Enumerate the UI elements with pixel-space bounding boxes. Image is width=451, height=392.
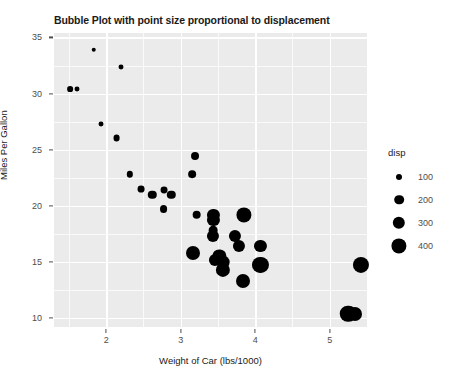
grid-line-vertical bbox=[255, 33, 256, 327]
data-point bbox=[233, 240, 245, 252]
data-point bbox=[217, 256, 230, 269]
data-point bbox=[119, 64, 124, 69]
data-point bbox=[254, 240, 266, 252]
data-point bbox=[137, 186, 144, 193]
legend-item: 400 bbox=[386, 234, 405, 257]
data-point bbox=[252, 257, 268, 273]
y-tick-mark bbox=[49, 317, 53, 318]
grid-line-vertical bbox=[330, 33, 331, 327]
legend-label: 300 bbox=[418, 218, 433, 228]
data-point bbox=[148, 190, 156, 198]
grid-line-horizontal bbox=[54, 150, 367, 151]
data-point bbox=[191, 152, 199, 160]
y-tick-label: 25 bbox=[12, 145, 42, 155]
y-tick-label: 15 bbox=[12, 257, 42, 267]
y-tick-mark bbox=[49, 149, 53, 150]
x-tick-mark bbox=[180, 329, 181, 333]
grid-line-minor-vertical bbox=[218, 33, 219, 327]
data-point bbox=[188, 171, 196, 179]
grid-line-vertical bbox=[106, 33, 107, 327]
y-tick-label: 20 bbox=[12, 201, 42, 211]
legend-key-background bbox=[386, 211, 412, 234]
grid-line-minor-vertical bbox=[292, 33, 293, 327]
grid-line-horizontal bbox=[54, 94, 367, 95]
x-axis-label: Weight of Car (lbs/1000) bbox=[54, 355, 367, 366]
y-tick-mark bbox=[49, 37, 53, 38]
legend-label: 400 bbox=[418, 241, 433, 251]
legend-bubble-icon bbox=[393, 216, 405, 228]
legend-entries: 100200300400 bbox=[386, 165, 405, 257]
legend-key-background bbox=[386, 234, 412, 257]
x-tick-mark bbox=[255, 329, 256, 333]
bubble-plot-figure: Bubble Plot with point size proportional… bbox=[0, 0, 451, 392]
data-point bbox=[348, 307, 362, 321]
y-tick-mark bbox=[49, 205, 53, 206]
x-tick-label: 2 bbox=[104, 335, 109, 345]
grid-line-minor-vertical bbox=[69, 33, 70, 327]
legend-bubble-icon bbox=[394, 195, 404, 205]
data-point bbox=[209, 226, 218, 235]
data-point bbox=[167, 190, 175, 198]
grid-line-horizontal bbox=[54, 318, 367, 319]
data-point bbox=[192, 210, 201, 219]
data-point bbox=[236, 274, 250, 288]
x-tick-label: 3 bbox=[178, 335, 183, 345]
legend-label: 100 bbox=[418, 172, 433, 182]
page-title: Bubble Plot with point size proportional… bbox=[54, 14, 374, 26]
grid-line-minor-horizontal bbox=[54, 66, 367, 67]
data-point bbox=[127, 171, 133, 177]
grid-line-minor-vertical bbox=[143, 33, 144, 327]
legend-label: 200 bbox=[418, 195, 433, 205]
legend-bubble-icon bbox=[391, 238, 406, 253]
x-tick-label: 5 bbox=[327, 335, 332, 345]
x-tick-mark bbox=[106, 329, 107, 333]
y-tick-mark bbox=[49, 261, 53, 262]
data-point bbox=[67, 86, 73, 92]
size-legend: disp 100200300400 bbox=[386, 147, 405, 257]
data-point bbox=[160, 205, 168, 213]
data-point bbox=[92, 48, 97, 53]
y-tick-mark bbox=[49, 93, 53, 94]
y-tick-label: 10 bbox=[12, 313, 42, 323]
y-axis-label: Miles Per Gallon bbox=[0, 110, 9, 180]
y-tick-label: 35 bbox=[12, 32, 42, 42]
data-point bbox=[113, 135, 120, 142]
grid-line-minor-horizontal bbox=[54, 290, 367, 291]
x-tick-label: 4 bbox=[253, 335, 258, 345]
legend-title: disp bbox=[388, 147, 405, 158]
grid-line-horizontal bbox=[54, 206, 367, 207]
data-point bbox=[236, 207, 251, 222]
legend-item: 200 bbox=[386, 188, 405, 211]
data-point bbox=[75, 87, 80, 92]
grid-line-minor-vertical bbox=[367, 33, 368, 327]
data-point bbox=[99, 121, 104, 126]
grid-line-horizontal bbox=[54, 37, 367, 38]
y-tick-label: 30 bbox=[12, 89, 42, 99]
legend-item: 300 bbox=[386, 211, 405, 234]
grid-line-minor-horizontal bbox=[54, 178, 367, 179]
legend-key-background bbox=[386, 165, 412, 188]
x-tick-mark bbox=[329, 329, 330, 333]
plot-panel bbox=[54, 33, 367, 327]
legend-bubble-icon bbox=[396, 174, 402, 180]
grid-line-vertical bbox=[181, 33, 182, 327]
legend-key-background bbox=[386, 188, 412, 211]
legend-item: 100 bbox=[386, 165, 405, 188]
data-point bbox=[186, 246, 200, 260]
